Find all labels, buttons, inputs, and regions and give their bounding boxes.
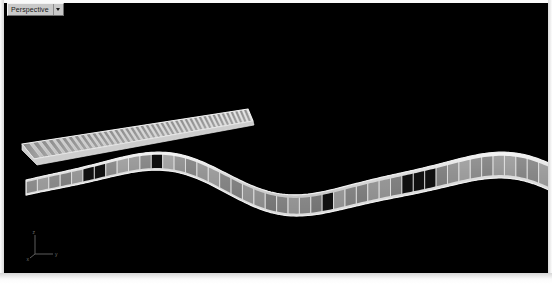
viewport-view-label: Perspective (8, 4, 53, 15)
geometry-canvas (4, 3, 548, 273)
window-edge-right (548, 0, 552, 284)
application-window: z y x Perspective (0, 0, 552, 284)
axis-tripod: z y x (26, 229, 62, 263)
axis-label-x: x (27, 256, 30, 262)
viewport-view-dropdown[interactable]: Perspective (7, 3, 64, 16)
window-edge-top (0, 0, 552, 3)
perspective-viewport[interactable]: z y x (4, 3, 548, 273)
window-edge-bottom (0, 273, 552, 284)
serpentine-band (26, 152, 548, 216)
window-edge-left (0, 0, 4, 284)
band-panel-dark (151, 152, 162, 170)
scene-render (4, 3, 548, 273)
axis-label-z: z (33, 229, 36, 235)
axis-label-y: y (55, 251, 58, 257)
chevron-down-icon[interactable] (53, 4, 63, 15)
band-panel (493, 152, 504, 178)
axis-line-x (30, 254, 35, 258)
